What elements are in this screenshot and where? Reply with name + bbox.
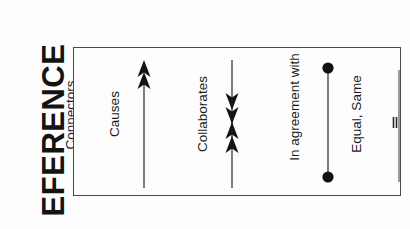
legend-entry-equal-same: Equal, Same bbox=[322, 48, 402, 197]
causes-arrow-icon bbox=[132, 60, 156, 188]
equal-same-line-icon bbox=[387, 60, 410, 188]
legend-entry-label: Equal, Same bbox=[348, 39, 366, 189]
legend-entry-label: In agreement with bbox=[286, 22, 304, 192]
legend-entry-label: Collaborates bbox=[194, 39, 212, 189]
legend-entry-causes: Causes bbox=[76, 48, 164, 197]
collaborates-double-arrow-icon bbox=[220, 60, 244, 188]
screenshot-canvas: EFERENCE Connectors Causes Collaborates bbox=[0, 0, 410, 229]
legend-entry-label: Causes bbox=[106, 39, 124, 189]
legend-entry-collaborates: Collaborates bbox=[164, 48, 252, 197]
legend-panel: Causes Collaborates bbox=[73, 47, 401, 196]
